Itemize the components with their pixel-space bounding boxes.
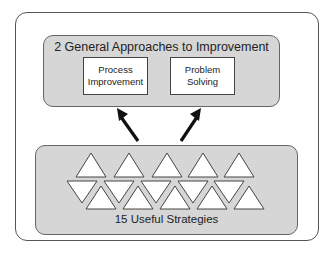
diagram-graphics <box>0 0 335 253</box>
arrow-up-left-icon <box>117 108 138 141</box>
strategy-triangle-icon <box>224 153 254 177</box>
strategy-triangle-icon <box>114 153 144 177</box>
strategy-triangle-icon <box>188 153 218 177</box>
arrow-up-right-icon <box>181 108 201 141</box>
strategy-triangles <box>67 153 264 209</box>
strategy-triangle-icon <box>76 153 106 177</box>
strategy-triangle-icon <box>152 153 182 177</box>
